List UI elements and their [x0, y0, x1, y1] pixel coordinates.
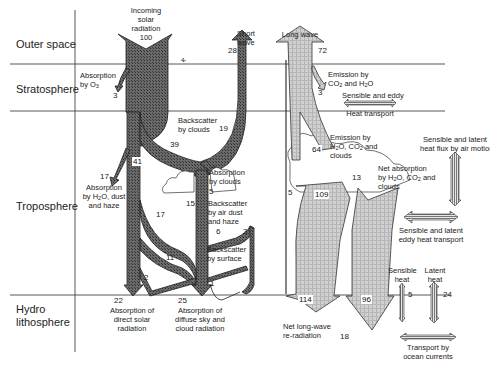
longwave-114-flow — [286, 182, 350, 312]
ozone-line1: Absorption — [80, 71, 116, 80]
ocean-line2: ocean currents — [400, 352, 456, 361]
haze-absorption-label: Absorption by H2O, dust and haze — [78, 183, 130, 210]
ozone-value: 3 — [113, 91, 117, 100]
incoming-line3: radiation — [128, 24, 164, 33]
net-abs-c: and — [421, 173, 436, 182]
em-co2-c: O — [367, 79, 373, 88]
latent-heat-label: Latent heat — [422, 266, 448, 284]
backscatter-clouds-label: Backscatter by clouds — [178, 116, 217, 134]
short-wave-line2: wave — [234, 38, 258, 47]
diffuse-abs-line1: Absorption of — [168, 306, 232, 315]
diffuse-absorption-value: 25 — [178, 296, 187, 305]
net-absorption-label: Net absorption by H2O, CO2 and clouds — [378, 164, 435, 191]
net-reradiation-value: 18 — [340, 332, 349, 341]
incoming-solar-label: Incoming solar radiation 100 — [128, 6, 164, 42]
em-h2o-c: and — [363, 142, 378, 151]
latent-heat-value: 24 — [443, 290, 452, 299]
backscatter-air-left-value: 6 — [216, 227, 220, 236]
diffuse-15-value: 15 — [186, 199, 195, 208]
strat-heat-line2: Heat transport — [342, 109, 398, 118]
air-motion-label: Sensible and latent heat flux by air mot… — [420, 135, 490, 153]
emission-h2o-label: Emission by H2O, CO2 and clouds — [330, 133, 377, 160]
surface-loop-return — [210, 284, 240, 300]
cloud-left — [162, 171, 194, 193]
strat-heat-arrow — [344, 99, 396, 107]
bs-air-line2: by air dust — [208, 208, 247, 217]
short-wave-value: 28 — [228, 46, 237, 55]
bs-air-line3: and haze — [208, 217, 247, 226]
longwave-109-value: 109 — [314, 190, 329, 199]
co2-emission-arrow — [312, 66, 326, 90]
haze-absorption-value: 17 — [100, 172, 109, 181]
em-co2-b: and H — [342, 79, 364, 88]
diffuse-abs-line2: diffuse sky and — [168, 315, 232, 324]
abs-clouds-line2: by clouds — [209, 177, 245, 186]
ozone-line2-text: by O — [80, 80, 96, 89]
eddy-transport-label: Sensible and latent eddy heat transport — [396, 226, 466, 244]
net-absorption-value: 13 — [352, 173, 361, 182]
incoming-line2: solar — [128, 15, 164, 24]
haze-line2b: O, dust — [101, 192, 125, 201]
em-h2o-line2: H2O, CO2 and — [330, 142, 377, 151]
longwave-5-value: 5 — [288, 188, 292, 197]
latent-heat-arrow — [429, 282, 439, 323]
sensible-heat-label: Sensible heat — [388, 266, 416, 284]
strat-heat-line1: Sensible and eddy — [342, 91, 398, 100]
sensible-heat-arrow — [399, 283, 405, 322]
net-abs-b: O, CO — [396, 173, 417, 182]
ozone-line2: by O3 — [80, 80, 116, 89]
net-rerad-line1: Net long-wave — [283, 322, 331, 331]
ocean-line1: Transport by — [400, 343, 456, 352]
cloud-branch-value: 39 — [169, 140, 180, 149]
backscatter-surface-label: Backscatter by surface — [207, 245, 246, 263]
net-abs-a: by H — [378, 173, 393, 182]
sensible-line2: heat — [388, 275, 416, 284]
absorption-clouds-label: Absorption by clouds — [209, 168, 245, 186]
haze-line3: and haze — [78, 201, 130, 210]
diffuse-17-value: 17 — [156, 210, 165, 219]
sensible-line1: Sensible — [388, 266, 416, 275]
latent-line1: Latent — [422, 266, 448, 275]
em-co2-a: CO — [328, 79, 339, 88]
bs-surface-line1: Backscatter — [207, 245, 246, 254]
haze-line2: by H2O, dust — [78, 192, 130, 201]
backscatter-air-label: Backscatter by air dust and haze — [208, 199, 247, 226]
direct-value: 41 — [132, 157, 143, 166]
emission-co2-label: Emission by CO2 and H2O — [328, 70, 373, 88]
diffuse-abs-line3: cloud radiation — [168, 324, 232, 333]
haze-line1: Absorption — [78, 183, 130, 192]
backscatter-clouds-value: 19 — [219, 124, 228, 133]
direct-absorption-value: 22 — [114, 296, 123, 305]
direct-abs-line2: direct solar — [104, 315, 160, 324]
ozone-sub: 3 — [96, 83, 99, 89]
air-motion-line1: Sensible and latent — [420, 135, 490, 144]
emission-co2-value: 3 — [318, 88, 322, 97]
diffuse-absorption-label: Absorption of diffuse sky and cloud radi… — [168, 306, 232, 333]
net-reradiation-label: Net long-wave re-radiation — [283, 322, 331, 340]
emission-h2o-value: 64 — [311, 145, 322, 154]
zone-outer-space: Outer space — [16, 38, 76, 51]
incoming-solar-arrow — [118, 34, 172, 146]
air-motion-arrow — [449, 152, 461, 206]
direct-abs-line3: radiation — [104, 324, 160, 333]
em-h2o-line3: clouds — [330, 151, 377, 160]
ocean-transport-label: Transport by ocean currents — [400, 343, 456, 361]
incoming-value: 100 — [128, 33, 164, 42]
long-wave-value: 72 — [318, 46, 327, 55]
zone-hydro-line1: Hydro — [16, 303, 70, 316]
air-motion-line2: heat flux by air motion — [420, 144, 490, 153]
reflect-2-value: 2 — [144, 273, 148, 282]
bs-surface-line2: by surface — [207, 254, 246, 263]
em-h2o-line1: Emission by — [330, 133, 377, 142]
zone-stratosphere: Stratosphere — [16, 83, 79, 96]
net-abs-line3: clouds — [378, 182, 435, 191]
eddy-transport-arrow — [404, 211, 458, 223]
net-abs-line1: Net absorption — [378, 164, 435, 173]
em-h2o-b: O, CO — [338, 142, 359, 151]
abs-clouds-line1: Absorption — [209, 168, 245, 177]
zone-hydro-lithosphere: Hydro lithosphere — [16, 303, 70, 329]
sensible-heat-value: 5 — [408, 290, 412, 299]
short-wave-line1: Short — [234, 29, 258, 38]
longwave-114-value: 114 — [298, 295, 313, 304]
longwave-96-flow — [346, 188, 398, 330]
